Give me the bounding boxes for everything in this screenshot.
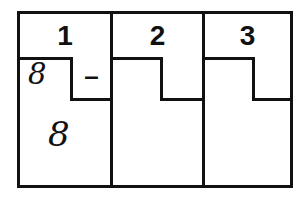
handwritten-digit-top-column-1: 8 xyxy=(28,60,46,89)
worksheet-canvas: 1 2 3 8 8 – xyxy=(0,0,307,200)
grid-frame: 1 2 3 8 8 – xyxy=(17,11,293,188)
operator-subbox-3[interactable] xyxy=(252,57,290,101)
column-header-digit-3: 3 xyxy=(240,22,256,50)
operator-subbox-1[interactable]: – xyxy=(70,57,110,101)
handwritten-digit-bottom-column-1: 8 xyxy=(48,117,70,151)
column-header-digit-1: 1 xyxy=(57,22,73,50)
minus-sign-icon: – xyxy=(84,63,98,89)
column-header-cell-1[interactable]: 1 xyxy=(20,14,110,57)
column-header-digit-2: 2 xyxy=(150,22,166,50)
column-header-cell-2[interactable]: 2 xyxy=(113,14,202,57)
column-header-cell-3[interactable]: 3 xyxy=(205,14,290,57)
operator-subbox-2[interactable] xyxy=(160,57,202,101)
